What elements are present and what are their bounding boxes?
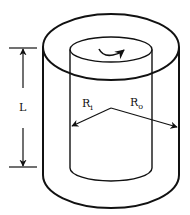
outer-radius-label: Ro [130,97,143,111]
length-label: L [19,102,26,113]
inner-radius-label: Ri [82,98,93,112]
outer-radius-arrow [111,108,177,127]
outer-cylinder [43,14,179,208]
couette-diagram [0,0,190,215]
rotation-arrow-icon [99,49,124,55]
